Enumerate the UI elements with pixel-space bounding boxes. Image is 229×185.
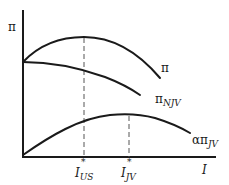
y-axis-label: π bbox=[8, 21, 16, 33]
i-us-star: * bbox=[81, 158, 86, 167]
pi-njv-curve-label: πNJV bbox=[155, 90, 181, 106]
diagram-canvas bbox=[0, 0, 229, 185]
pi-curve-label: π bbox=[161, 62, 169, 74]
alpha-pi-jv-curve bbox=[23, 114, 190, 155]
profit-investment-diagram: π π πNJV απJV I*US I*JV I bbox=[0, 0, 229, 185]
alpha-pi-jv-sub: JV bbox=[208, 139, 218, 149]
i-jv-star: * bbox=[127, 158, 132, 167]
i-jv-label: I*JV bbox=[121, 164, 136, 180]
pi-njv-main: π bbox=[155, 92, 163, 106]
x-axis-label: I bbox=[202, 164, 207, 176]
i-jv-sub: JV bbox=[126, 172, 136, 182]
alpha-pi-jv-main: απ bbox=[192, 133, 208, 147]
alpha-pi-jv-curve-label: απJV bbox=[192, 131, 218, 147]
i-us-sub: US bbox=[80, 172, 94, 182]
pi-njv-curve bbox=[23, 62, 140, 95]
pi-njv-sub: NJV bbox=[163, 98, 181, 108]
i-us-label: I*US bbox=[75, 164, 94, 180]
